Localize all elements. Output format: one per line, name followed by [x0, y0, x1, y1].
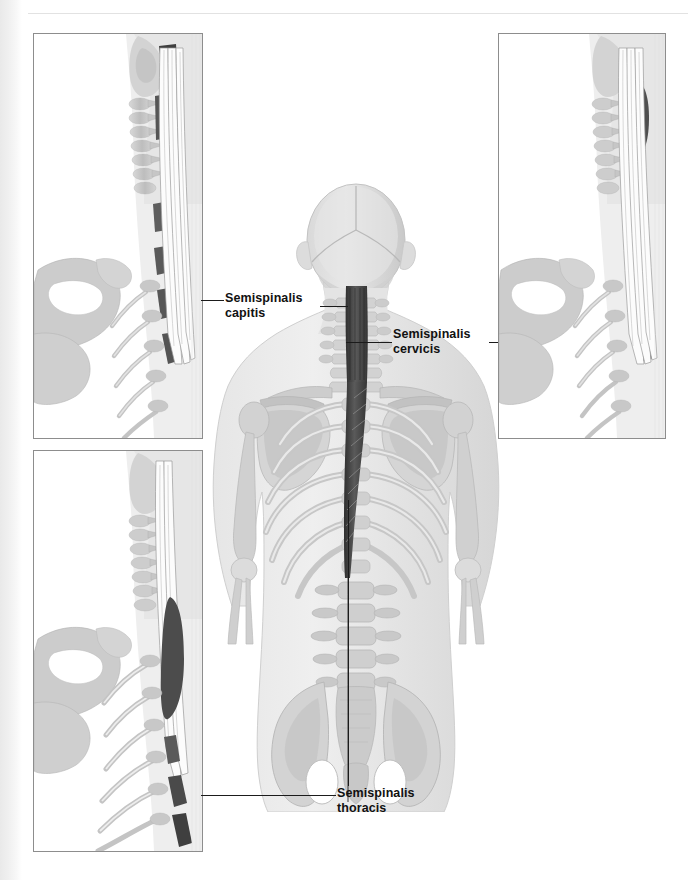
label-semispinalis-capitis: Semispinalis capitis — [225, 291, 303, 321]
leader-cervicis-left — [346, 342, 392, 343]
leader-cervicis-bridge — [489, 342, 498, 343]
inset-panel-top-left[interactable] — [33, 33, 203, 439]
label-thoracis-line2: thoracis — [337, 801, 415, 816]
inset-panel-bottom-left[interactable] — [33, 450, 203, 852]
header-rule — [28, 13, 688, 14]
panel-top-right-illustration — [499, 34, 665, 438]
label-capitis-line2: capitis — [225, 306, 303, 321]
label-semispinalis-cervicis: Semispinalis cervicis — [393, 327, 471, 357]
panel-top-left-illustration — [34, 34, 202, 438]
central-figure[interactable] — [196, 182, 516, 812]
leader-capitis-right — [320, 306, 348, 307]
label-cervicis-line2: cervicis — [393, 342, 471, 357]
panel-bottom-left-illustration — [34, 451, 202, 851]
plate-page: Semispinalis capitis Semispinalis cervic… — [0, 0, 698, 880]
leader-thoracis-horizontal — [201, 795, 336, 796]
leader-capitis-left — [201, 300, 224, 301]
label-capitis-line1: Semispinalis — [225, 291, 303, 305]
page-binding-edge — [0, 0, 22, 880]
label-thoracis-line1: Semispinalis — [337, 786, 415, 800]
label-cervicis-line1: Semispinalis — [393, 327, 471, 341]
posterior-skeleton-illustration — [196, 182, 516, 812]
leader-thoracis-vertical — [348, 500, 349, 786]
label-semispinalis-thoracis: Semispinalis thoracis — [337, 786, 415, 816]
inset-panel-top-right[interactable] — [498, 33, 666, 439]
